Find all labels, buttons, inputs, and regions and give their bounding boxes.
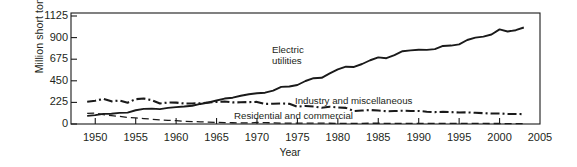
chart-figure: Million short tons 02254506759001125 195… bbox=[0, 0, 577, 167]
series-label-residential: Residential and commercial bbox=[234, 110, 353, 121]
series-label-industry: Industry and miscellaneous bbox=[295, 95, 412, 106]
plot-border bbox=[71, 13, 540, 124]
series-label-electric-line1: Electric bbox=[272, 44, 304, 55]
x-axis-label: Year bbox=[250, 146, 330, 158]
y-tickmarks bbox=[71, 16, 77, 124]
axis-frame bbox=[71, 13, 540, 124]
plot-canvas bbox=[0, 0, 577, 167]
series-label-electric-utilities: Electric utilities bbox=[272, 44, 304, 66]
series-label-electric-line2: utilities bbox=[272, 55, 304, 66]
